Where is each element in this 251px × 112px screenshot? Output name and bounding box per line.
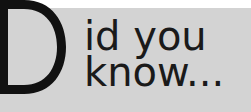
heading-line-2: know...	[84, 52, 224, 92]
drop-cap-d	[0, 0, 70, 98]
